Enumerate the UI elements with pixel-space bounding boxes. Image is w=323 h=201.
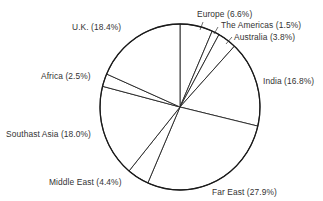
label-southeast-asia: Southast Asia (18.0%) (6, 129, 91, 139)
label-far-east: Far East (27.9%) (212, 187, 277, 197)
label-the-americas: The Americas (1.5%) (221, 20, 301, 30)
label-africa: Africa (2.5%) (41, 71, 91, 81)
label-uk: U.K. (18.4%) (72, 22, 121, 32)
label-middle-east: Middle East (4.4%) (49, 177, 122, 187)
label-india: India (16.8%) (263, 76, 314, 86)
label-australia: Australia (3.8%) (234, 32, 295, 42)
pie-chart (0, 0, 323, 201)
label-europe: Europe (6.6%) (197, 9, 252, 19)
pie-slices (100, 24, 260, 190)
